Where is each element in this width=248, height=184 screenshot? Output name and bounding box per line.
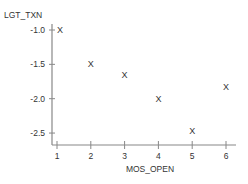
data-point-marker: X [189,126,195,136]
x-tick-label: 5 [190,151,195,161]
y-tick-label: -2.5 [30,128,45,138]
x-tick-label: 6 [224,151,229,161]
x-tick-label: 3 [122,151,127,161]
axes [52,24,236,145]
x-ticks: 123456 [55,141,229,161]
data-point-marker: X [155,94,161,104]
y-tick-label: -1.0 [30,25,45,35]
y-axis-label: LGT_TXN [4,10,42,20]
x-tick-label: 4 [156,151,161,161]
data-points: XXXXXX [57,25,229,136]
data-point-marker: X [88,59,94,69]
y-tick-label: -2.0 [30,94,45,104]
y-ticks: -1.0-1.5-2.0-2.5 [30,25,55,138]
y-tick-label: -1.5 [30,59,45,69]
data-point-marker: X [122,70,128,80]
x-tick-label: 2 [88,151,93,161]
data-point-marker: X [57,25,63,35]
data-point-marker: X [223,82,229,92]
x-axis-label: MOS_OPEN [126,164,174,174]
x-tick-label: 1 [55,151,60,161]
scatter-chart: LGT_TXN -1.0-1.5-2.0-2.5 123456 XXXXXX M… [0,0,248,184]
